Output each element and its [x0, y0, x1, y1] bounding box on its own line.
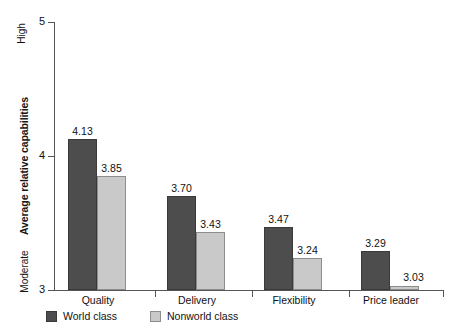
bar-quality-world-class	[68, 139, 97, 290]
x-tick-mark	[443, 291, 444, 297]
bar-value-label: 3.03	[398, 272, 430, 283]
y-tick-label: 5	[31, 16, 45, 27]
bar-flexibility-nonworld-class	[293, 258, 322, 290]
legend-item-nonworld-class[interactable]: Nonworld class	[150, 310, 238, 322]
bar-value-label: 3.85	[96, 163, 128, 174]
bar-delivery-world-class	[167, 196, 196, 290]
bar-value-label: 3.29	[360, 238, 392, 249]
bar-chart: Average relative capabilities High Moder…	[0, 0, 450, 333]
bar-quality-nonworld-class	[97, 176, 126, 290]
bar-value-label: 3.47	[263, 214, 295, 225]
category-label-flexibility: Flexibility	[249, 295, 339, 307]
bar-value-label: 3.24	[292, 245, 324, 256]
legend-label: Nonworld class	[167, 310, 238, 322]
legend-item-world-class[interactable]: World class	[46, 310, 117, 322]
legend-swatch-icon	[46, 311, 57, 322]
category-label-delivery: Delivery	[152, 295, 242, 307]
y-axis-title: Average relative capabilities	[18, 76, 30, 256]
bar-delivery-nonworld-class	[196, 232, 225, 290]
y-axis-high-label: High	[16, 11, 27, 57]
legend-label: World class	[63, 310, 117, 322]
y-tick-mark	[48, 290, 55, 291]
category-label-quality: Quality	[53, 295, 143, 307]
bar-value-label: 4.13	[67, 126, 99, 137]
bar-value-label: 3.43	[195, 219, 227, 230]
bar-price-leader-world-class	[361, 251, 390, 290]
y-tick-mark	[48, 22, 55, 23]
y-tick-mark	[48, 156, 55, 157]
bar-value-label: 3.70	[166, 183, 198, 194]
x-axis-line	[54, 290, 444, 291]
legend-swatch-icon	[150, 311, 161, 322]
y-tick-label: 4	[31, 150, 45, 161]
y-axis-moderate-label: Moderate	[19, 241, 30, 303]
y-tick-label: 3	[31, 284, 45, 295]
bar-flexibility-world-class	[264, 227, 293, 290]
category-label-price-leader: Price leader	[346, 295, 436, 307]
bar-price-leader-nonworld-class	[390, 286, 419, 290]
